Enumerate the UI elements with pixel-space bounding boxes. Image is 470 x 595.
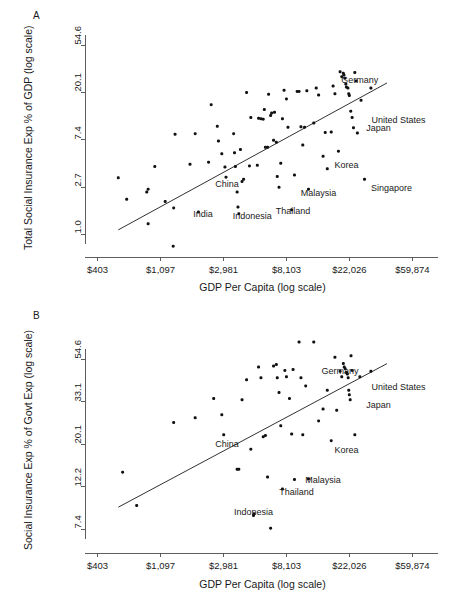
data-point (350, 354, 353, 357)
data-point (172, 421, 175, 424)
data-point (305, 89, 308, 92)
data-point (276, 376, 279, 379)
panel-a-plot-area (0, 0, 470, 300)
data-point (269, 527, 272, 530)
data-point (275, 363, 278, 366)
data-point (264, 434, 267, 437)
x-tick-label: $22,026 (332, 560, 366, 571)
x-tick-label: $8,103 (272, 264, 301, 275)
panel-b-x-axis-label: GDP Per Capita (log scale) (85, 578, 440, 590)
data-point (257, 365, 260, 368)
data-point (333, 356, 336, 359)
data-point (285, 97, 288, 100)
data-point (276, 175, 279, 178)
point-annotation-germany: Germany (341, 75, 378, 85)
data-point (339, 70, 342, 73)
x-tick-label: $1,097 (146, 264, 175, 275)
data-point (298, 341, 301, 344)
data-point (172, 206, 175, 209)
data-point (279, 162, 282, 165)
data-point (241, 398, 244, 401)
data-point (363, 178, 366, 181)
x-tick-label: $1,097 (146, 560, 175, 571)
data-point (172, 245, 175, 248)
data-point (292, 368, 295, 371)
data-point (220, 413, 223, 416)
point-annotation-china: China (215, 179, 239, 189)
data-point (298, 90, 301, 93)
data-point (369, 370, 372, 373)
point-annotation-united-states: United States (371, 382, 425, 392)
data-point (239, 148, 242, 151)
data-point (234, 165, 237, 168)
point-annotation-china: China (215, 439, 239, 449)
data-point (332, 84, 335, 87)
data-point (348, 94, 351, 97)
data-point (273, 111, 276, 114)
data-point (288, 397, 291, 400)
data-point (317, 419, 320, 422)
panel-a-x-axis-label: GDP Per Capita (log scale) (85, 281, 440, 293)
data-point (290, 433, 293, 436)
data-point (301, 433, 304, 436)
data-point (330, 130, 333, 133)
data-point (322, 407, 325, 410)
point-annotation-malaysia: Malaysia (305, 475, 341, 485)
data-point (220, 152, 223, 155)
data-point (322, 155, 325, 158)
point-annotation-korea: Korea (334, 445, 358, 455)
data-point (210, 103, 213, 106)
x-tick-label: $22,026 (332, 264, 366, 275)
panel-a: A Total Social Insurance Exp % of GDP (l… (0, 0, 470, 300)
data-point (335, 409, 338, 412)
data-point (233, 151, 236, 154)
data-point (281, 117, 284, 120)
data-point (337, 150, 340, 153)
point-annotation-japan: Japan (366, 123, 391, 133)
data-point (360, 99, 363, 102)
point-annotation-malaysia: Malaysia (301, 188, 337, 198)
data-point (315, 87, 318, 90)
point-annotation-korea: Korea (334, 160, 358, 170)
data-point (347, 376, 350, 379)
data-point (299, 125, 302, 128)
figure-container: A Total Social Insurance Exp % of GDP (l… (0, 0, 470, 595)
data-point (304, 384, 307, 387)
point-annotation-germany: Germany (322, 366, 359, 376)
data-point (147, 222, 150, 225)
data-point (283, 369, 286, 372)
data-point (267, 93, 270, 96)
data-point (347, 389, 350, 392)
data-point (269, 114, 272, 117)
data-point (117, 176, 120, 179)
data-point (147, 188, 150, 191)
data-point (212, 397, 215, 400)
panel-a-y-axis-label: Total Social Insurance Exp % of GDP (log… (22, 26, 34, 251)
data-point (342, 362, 345, 365)
data-point (293, 174, 296, 177)
data-point (248, 164, 251, 167)
data-point (275, 141, 278, 144)
data-point (270, 111, 273, 114)
data-point (303, 126, 306, 129)
point-annotation-japan: Japan (366, 400, 391, 410)
panel-b: B Social Insurance Exp % of Govt Exp (lo… (0, 295, 470, 595)
data-point (348, 393, 351, 396)
data-point (272, 365, 275, 368)
data-point (312, 122, 315, 125)
point-annotation-indonesia: Indonesia (234, 507, 273, 517)
data-point (333, 92, 336, 95)
data-point (217, 139, 220, 142)
x-tick-label: $8,103 (272, 560, 301, 571)
data-point (194, 416, 197, 419)
data-point (349, 398, 352, 401)
data-point (236, 190, 239, 193)
data-point (262, 118, 265, 121)
data-point (326, 389, 329, 392)
data-point (237, 468, 240, 471)
data-point (249, 116, 252, 119)
data-point (174, 133, 177, 136)
data-point (279, 424, 282, 427)
x-tick-label: $2,981 (209, 264, 238, 275)
data-point (125, 198, 128, 201)
